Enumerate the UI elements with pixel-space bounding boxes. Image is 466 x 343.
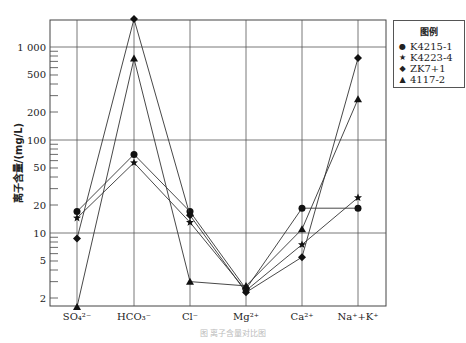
series-zk7-1 [73,15,362,296]
y-tick-label: 1 000 [17,42,46,53]
legend: 图例 ●K4215-1 ★K4223-4 ◆ZK7+1 ▲4117-2 [393,20,465,88]
legend-label: ZK7+1 [410,63,446,74]
star-marker-icon: ★ [398,53,407,62]
legend-title: 图例 [394,25,464,38]
legend-item-k4215-1: ●K4215-1 [394,41,464,52]
x-category-label: SO₄²⁻ [63,311,91,322]
diamond-marker-icon: ◆ [398,64,407,73]
y-tick-label: 50 [33,162,46,173]
legend-item-4117-2: ▲4117-2 [394,74,464,85]
legend-label: K4223-4 [410,52,453,63]
x-category-label: Na⁺+K⁺ [337,311,378,322]
series-4117-2 [73,55,362,310]
y-tick-label: 500 [27,69,46,80]
y-axis-label: 离子含量/(mg/L) [12,123,24,203]
legend-label: 4117-2 [410,74,445,85]
x-category-label: Ca²⁺ [291,311,314,322]
y-tick-label: 100 [27,135,46,146]
y-tick-label: 20 [33,200,46,211]
plot-frame [50,20,386,306]
x-category-label: Cl⁻ [182,311,198,322]
legend-item-zk7-1: ◆ZK7+1 [394,63,464,74]
y-tick-label: 2 [40,293,46,304]
y-tick-label: 10 [33,228,46,239]
y-tick-label: 5 [40,255,46,266]
series-k4215-1 [74,151,362,293]
circle-marker-icon: ● [398,42,407,51]
x-category-label: HCO₃⁻ [117,311,151,322]
x-category-label: Mg²⁺ [233,311,259,322]
figure-caption: 图 离子含量对比图 [0,327,466,338]
series-k4223-4 [73,159,362,295]
triangle-marker-icon: ▲ [398,75,407,84]
legend-item-k4223-4: ★K4223-4 [394,52,464,63]
legend-label: K4215-1 [410,41,453,52]
y-tick-label: 200 [27,107,46,118]
